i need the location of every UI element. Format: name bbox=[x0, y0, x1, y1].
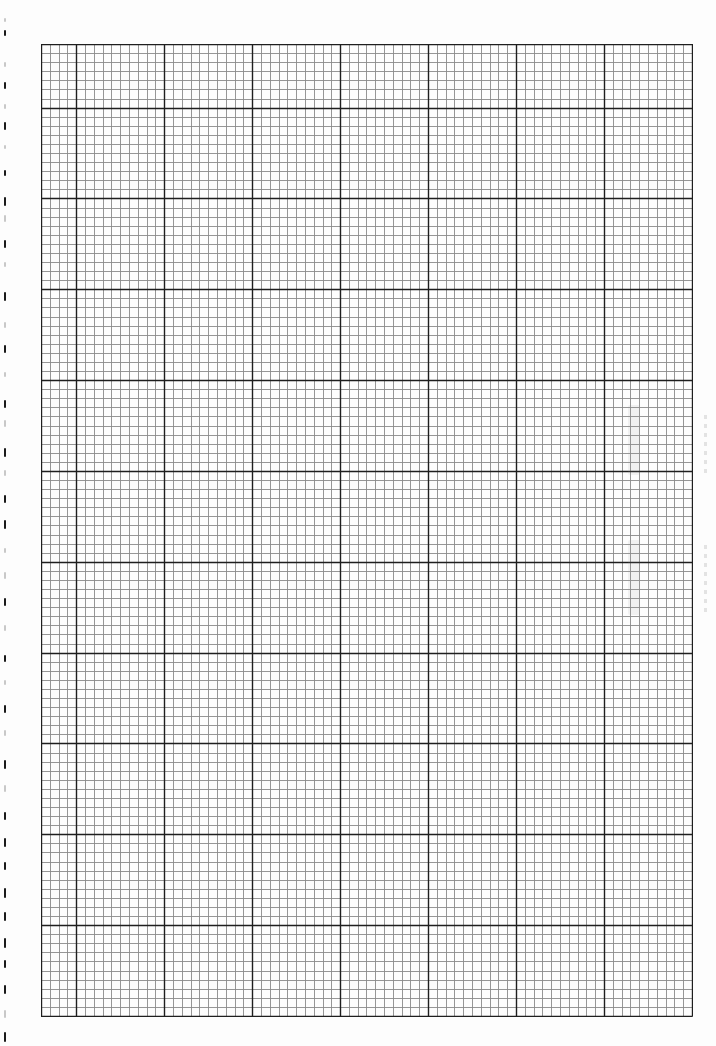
perforation-mark bbox=[4, 30, 6, 36]
perforation-mark bbox=[4, 598, 6, 606]
perforation-mark bbox=[4, 938, 6, 948]
perforation-mark bbox=[4, 705, 6, 713]
perforation-mark bbox=[4, 145, 6, 149]
perforation-mark bbox=[4, 838, 6, 847]
perforation-mark bbox=[4, 760, 6, 769]
perforation-mark bbox=[4, 197, 6, 206]
perforation-mark bbox=[4, 1032, 6, 1042]
perforation-mark bbox=[4, 520, 6, 529]
perforation-mark bbox=[4, 470, 6, 476]
perforation-mark bbox=[4, 345, 6, 353]
perforation-mark bbox=[4, 548, 6, 553]
perforation-mark bbox=[4, 122, 6, 130]
perforation-mark bbox=[4, 812, 6, 820]
show-through-text bbox=[704, 545, 707, 615]
perforation-mark bbox=[4, 495, 6, 503]
perforation-mark bbox=[4, 18, 6, 22]
perforation-mark bbox=[4, 240, 6, 248]
perforation-margin bbox=[2, 0, 12, 1046]
perforation-mark bbox=[4, 888, 6, 898]
perforation-mark bbox=[4, 985, 6, 994]
perforation-mark bbox=[4, 82, 6, 89]
perforation-mark bbox=[4, 62, 6, 67]
show-through-text bbox=[704, 415, 707, 475]
perforation-mark bbox=[4, 655, 6, 662]
bleed-smudge bbox=[628, 540, 640, 615]
perforation-mark bbox=[4, 625, 6, 631]
perforation-mark bbox=[4, 448, 6, 457]
perforation-mark bbox=[4, 960, 6, 968]
perforation-mark bbox=[4, 104, 6, 109]
grid-lines bbox=[41, 44, 693, 1017]
perforation-mark bbox=[4, 730, 6, 736]
perforation-mark bbox=[4, 572, 6, 579]
perforation-mark bbox=[4, 420, 6, 427]
perforation-mark bbox=[4, 785, 6, 792]
bleed-smudge bbox=[628, 405, 640, 475]
perforation-mark bbox=[4, 680, 6, 685]
perforation-mark bbox=[4, 862, 6, 870]
perforation-mark bbox=[4, 292, 6, 301]
perforation-mark bbox=[4, 912, 6, 921]
graph-paper-page bbox=[0, 0, 716, 1046]
perforation-mark bbox=[4, 372, 6, 377]
perforation-mark bbox=[4, 262, 6, 267]
perforation-mark bbox=[4, 215, 6, 222]
graph-grid bbox=[41, 44, 692, 1016]
perforation-mark bbox=[4, 322, 6, 328]
perforation-mark bbox=[4, 170, 6, 176]
perforation-mark bbox=[4, 1010, 6, 1018]
perforation-mark bbox=[4, 400, 6, 408]
